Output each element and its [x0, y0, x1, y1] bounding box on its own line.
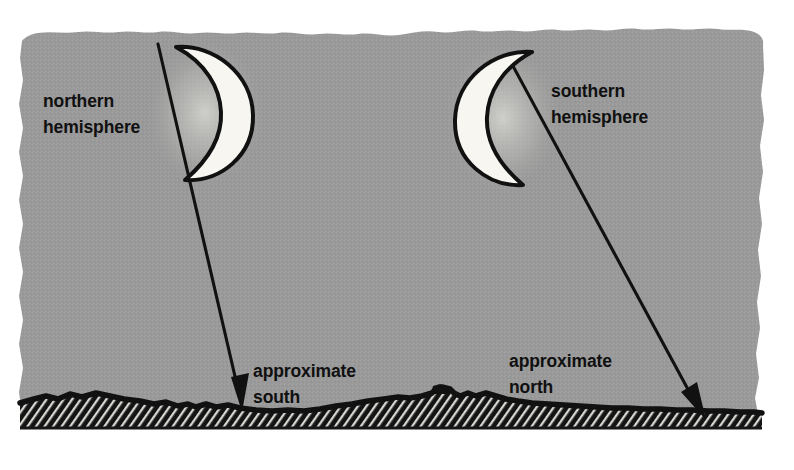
label-northern-line2: hemisphere	[43, 117, 141, 137]
label-southern-line1: southern	[551, 81, 625, 101]
label-southern-line2: hemisphere	[551, 107, 649, 127]
label-northern-line1: northern	[43, 91, 114, 111]
moon-orientation-figure: northern hemisphere approximate south so…	[0, 0, 794, 470]
label-approx-north-line1: approximate	[509, 351, 612, 371]
label-approx-south-line2: south	[253, 387, 300, 407]
diagram-canvas: northern hemisphere approximate south so…	[0, 0, 794, 470]
label-approx-south-line1: approximate	[253, 361, 356, 381]
label-approx-north-line2: north	[509, 377, 553, 397]
